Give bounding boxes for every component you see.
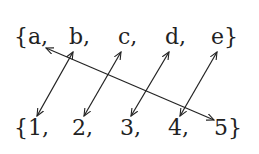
arrow-c-2 xyxy=(84,52,121,116)
arrow-d-3 xyxy=(131,52,169,116)
arrow-a-5 xyxy=(46,48,214,120)
arrows-layer xyxy=(0,0,259,154)
arrow-b-1 xyxy=(37,52,73,116)
bijection-diagram: {a, b, c, d, e} {1, 2, 3, 4, 5} xyxy=(0,0,259,154)
arrow-e-4 xyxy=(180,52,217,116)
